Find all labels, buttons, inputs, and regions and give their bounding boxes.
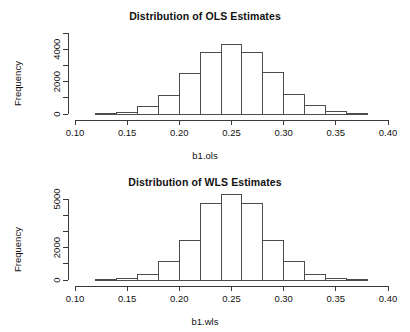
- histogram-bar: [158, 261, 179, 280]
- histogram-bar: [284, 95, 305, 114]
- histogram-bar: [221, 44, 242, 114]
- histogram-bar: [242, 204, 263, 280]
- histogram-bar: [117, 112, 138, 114]
- histogram-bar: [284, 261, 305, 280]
- plot-area-ols: 0200040000.100.150.200.250.300.350.40: [0, 0, 410, 166]
- x-tick-label: 0.40: [379, 127, 398, 138]
- panel-wls: Distribution of WLS Estimates Frequency …: [0, 166, 410, 332]
- x-axis-label-ols: b1.ols: [0, 150, 410, 161]
- histogram-bar: [96, 280, 117, 281]
- x-tick-label: 0.15: [118, 127, 137, 138]
- histogram-bar: [158, 95, 179, 114]
- y-tick-label: 2000: [51, 237, 62, 258]
- x-tick-label: 0.25: [222, 127, 241, 138]
- histogram-bar: [200, 204, 221, 280]
- histogram-bar: [117, 279, 138, 280]
- histogram-bar: [179, 240, 200, 280]
- histogram-bar: [346, 280, 367, 281]
- y-tick-label: 5000: [51, 188, 62, 209]
- x-tick-label: 0.35: [327, 127, 346, 138]
- x-tick-label: 0.25: [222, 293, 241, 304]
- histogram-figure: Distribution of OLS Estimates Frequency …: [0, 0, 410, 332]
- histogram-bar: [138, 107, 159, 114]
- histogram-bar: [325, 112, 346, 114]
- histogram-bar: [242, 52, 263, 114]
- plot-area-wls: 0200050000.100.150.200.250.300.350.40: [0, 166, 410, 332]
- x-tick-label: 0.20: [170, 127, 189, 138]
- histogram-bar: [138, 275, 159, 280]
- histogram-bar: [305, 275, 326, 280]
- y-tick-label: 4000: [51, 39, 62, 60]
- panel-ols: Distribution of OLS Estimates Frequency …: [0, 0, 410, 166]
- y-tick-label: 0: [51, 111, 62, 116]
- x-tick-label: 0.30: [274, 293, 293, 304]
- y-tick-label: 2000: [51, 71, 62, 92]
- x-tick-label: 0.10: [66, 127, 85, 138]
- histogram-bar: [325, 279, 346, 280]
- histogram-bar: [263, 73, 284, 114]
- x-tick-label: 0.35: [327, 293, 346, 304]
- histogram-bar: [221, 195, 242, 280]
- x-tick-label: 0.15: [118, 293, 137, 304]
- x-tick-label: 0.40: [379, 293, 398, 304]
- x-tick-label: 0.30: [274, 127, 293, 138]
- histogram-bar: [96, 114, 117, 115]
- histogram-bar: [346, 113, 367, 114]
- histogram-bar: [200, 52, 221, 114]
- histogram-bar: [305, 106, 326, 114]
- y-tick-label: 0: [51, 277, 62, 282]
- x-axis-label-wls: b1.wls: [0, 316, 410, 327]
- x-tick-label: 0.10: [66, 293, 85, 304]
- x-tick-label: 0.20: [170, 293, 189, 304]
- histogram-bar: [263, 240, 284, 280]
- histogram-bar: [179, 74, 200, 115]
